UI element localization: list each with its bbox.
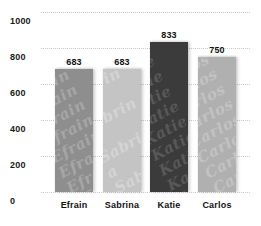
y-axis-tick-0: 0	[10, 196, 46, 206]
category-label-carlos: Carlos	[192, 200, 242, 210]
bar-slot-1: Sabrina Sabrina Sabrina Sabrina Sabrina …	[103, 12, 141, 192]
bar-sabrina[interactable]: Sabrina Sabrina Sabrina Sabrina Sabrina …	[103, 69, 141, 192]
value-label-katie: 833	[150, 30, 188, 40]
bar-katie[interactable]: Katie Katie Katie Katie Katie Katie Kati…	[150, 42, 188, 192]
y-axis-tick-1000: 1000	[10, 16, 46, 26]
bar-efrain[interactable]: Efrain Efrain Efrain Efrain Efrain Efrai…	[55, 69, 93, 192]
value-label-efrain: 683	[55, 57, 93, 67]
bar-watermark-sabrina: Sabrina Sabrina Sabrina Sabrina Sabrina …	[103, 69, 141, 192]
category-label-katie: Katie	[144, 200, 194, 210]
y-axis-tick-600: 600	[10, 88, 46, 98]
category-label-efrain: Efrain	[49, 200, 99, 210]
bar-watermark-carlos: Carlos Carlos Carlos Carlos Carlos Carlo…	[198, 57, 236, 192]
y-axis-tick-800: 800	[10, 52, 46, 62]
gridline-0	[41, 192, 250, 193]
bar-slot-0: Efrain Efrain Efrain Efrain Efrain Efrai…	[55, 12, 93, 192]
value-label-carlos: 750	[198, 45, 236, 55]
bar-watermark-efrain: Efrain Efrain Efrain Efrain Efrain Efrai…	[55, 69, 93, 192]
y-axis-tick-400: 400	[10, 124, 46, 134]
y-axis-tick-200: 200	[10, 160, 46, 170]
value-label-sabrina: 683	[103, 57, 141, 67]
bar-carlos[interactable]: Carlos Carlos Carlos Carlos Carlos Carlo…	[198, 57, 236, 192]
plot-area: Efrain Efrain Efrain Efrain Efrain Efrai…	[41, 12, 250, 192]
bar-slot-3: Carlos Carlos Carlos Carlos Carlos Carlo…	[198, 12, 236, 192]
bar-chart: 1000 800 600 400 200 0 Efrain Efrain Efr…	[0, 0, 261, 226]
bar-watermark-katie: Katie Katie Katie Katie Katie Katie Kati…	[150, 42, 188, 192]
category-label-sabrina: Sabrina	[97, 200, 147, 210]
